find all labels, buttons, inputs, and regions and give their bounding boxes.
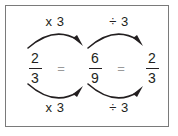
fraction-bar bbox=[89, 68, 102, 69]
fraction-numerator: 6 bbox=[84, 51, 106, 66]
fraction-second: 6 9 bbox=[84, 51, 106, 86]
fraction-bar bbox=[146, 68, 159, 69]
operation-label-top-right: ÷ 3 bbox=[92, 14, 146, 29]
fraction-numerator: 2 bbox=[141, 51, 163, 66]
fraction-denominator: 3 bbox=[24, 71, 46, 86]
curved-arrow-numerator-left-icon bbox=[26, 28, 86, 50]
curved-arrow-numerator-right-icon bbox=[86, 28, 146, 50]
equals-sign-first: = bbox=[54, 61, 68, 76]
operation-label-top-left: x 3 bbox=[28, 14, 82, 29]
fraction-numerator: 2 bbox=[24, 51, 46, 66]
fraction-bar bbox=[29, 68, 42, 69]
fraction-denominator: 3 bbox=[141, 71, 163, 86]
fraction-first: 2 3 bbox=[24, 51, 46, 86]
fraction-third: 2 3 bbox=[141, 51, 163, 86]
equals-sign-second: = bbox=[114, 61, 128, 76]
equivalent-fractions-diagram: x 3 ÷ 3 x 3 ÷ 3 2 3 = 6 9 = 2 3 bbox=[5, 5, 169, 127]
fraction-denominator: 9 bbox=[84, 71, 106, 86]
